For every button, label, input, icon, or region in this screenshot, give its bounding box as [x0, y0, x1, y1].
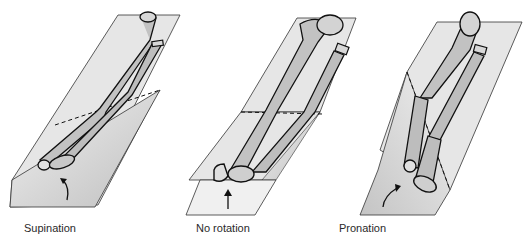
panel-supination: [10, 12, 180, 207]
ulna-head: [317, 15, 343, 35]
distal-plane: [186, 180, 276, 215]
caption-pronation: Pronation: [339, 222, 386, 234]
forearm-rotation-diagram: [0, 0, 532, 245]
ulna-head: [460, 12, 480, 36]
panel-pronation: [360, 12, 522, 215]
caption-supination: Supination: [24, 222, 76, 234]
ulna-head: [140, 12, 156, 22]
ulna-end: [38, 160, 50, 170]
panel-no-rotation: [186, 15, 356, 215]
caption-no-rotation: No rotation: [196, 222, 250, 234]
radius-head: [152, 40, 164, 46]
ulna-end: [404, 160, 416, 172]
radius-end: [228, 166, 254, 182]
